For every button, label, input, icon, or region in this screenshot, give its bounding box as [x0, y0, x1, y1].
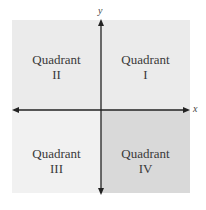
x-axis-label: x: [193, 103, 197, 114]
y-axis-label: y: [98, 5, 102, 16]
y-axis-up-arrow-icon: [98, 19, 104, 26]
x-axis-left-arrow-icon: [12, 107, 19, 113]
y-axis: [98, 19, 104, 195]
x-axis-right-arrow-icon: [183, 107, 190, 113]
y-axis-down-arrow-icon: [98, 188, 104, 195]
axes: [0, 0, 206, 210]
